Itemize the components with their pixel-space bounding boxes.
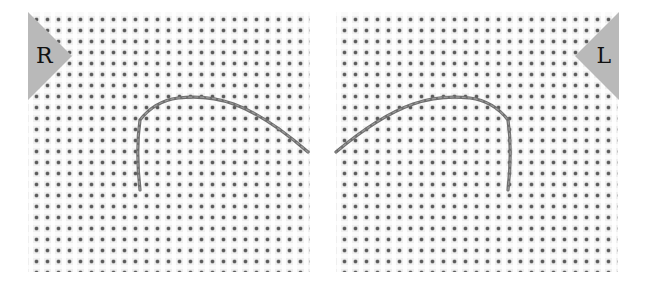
thread-right <box>336 12 618 272</box>
fabric-panel-right-handed <box>28 12 310 272</box>
marker-label-l: L <box>596 42 611 70</box>
thread-left <box>28 12 310 272</box>
marker-label-r: R <box>36 42 53 70</box>
fabric-panel-left-handed <box>336 12 618 272</box>
